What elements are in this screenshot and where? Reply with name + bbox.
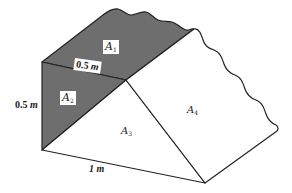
dimension-left-edge-value: 0.5 bbox=[15, 99, 28, 110]
label-a3: A3 bbox=[121, 126, 132, 137]
dimension-bottom-edge-unit: m bbox=[97, 163, 105, 174]
label-a3-sub: 3 bbox=[128, 130, 132, 137]
label-a4: A4 bbox=[187, 105, 198, 116]
label-a1-sub: 1 bbox=[113, 46, 117, 53]
dimension-top-edge-unit: m bbox=[90, 60, 99, 72]
prism-diagram bbox=[0, 0, 292, 193]
label-a2: A2 bbox=[60, 91, 76, 105]
dimension-bottom-edge-value: 1 bbox=[89, 163, 94, 174]
label-a1-base: A bbox=[105, 40, 113, 53]
dimension-bottom-edge: 1 m bbox=[89, 164, 104, 174]
label-a2-sub: 2 bbox=[70, 97, 74, 104]
label-a2-base: A bbox=[62, 91, 70, 104]
dimension-left-edge-unit: m bbox=[30, 99, 38, 110]
label-a4-sub: 4 bbox=[194, 109, 198, 116]
dimension-left-edge: 0.5 m bbox=[15, 100, 38, 110]
label-a1: A1 bbox=[103, 40, 119, 54]
dimension-top-edge-value: 0.5 bbox=[75, 58, 89, 71]
